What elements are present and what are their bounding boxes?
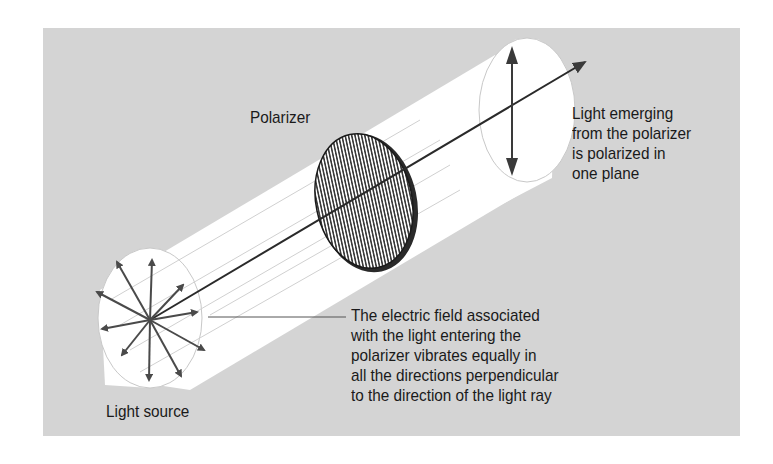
emerging-line-3: is polarized in (572, 144, 666, 164)
polarizer-label: Polarizer (250, 108, 310, 128)
emerging-line-2: from the polarizer (572, 124, 691, 144)
electric-field-line-4: all the directions perpendicular (351, 366, 559, 386)
electric-field-line-2: with the light entering the (351, 326, 521, 346)
electric-field-line-1: The electric field associated (351, 306, 540, 326)
electric-field-line-3: polarizer vibrates equally in (351, 346, 536, 366)
light-source-label: Light source (106, 402, 189, 422)
emerging-line-4: one plane (572, 164, 639, 184)
emerging-line-1: Light emerging (572, 104, 673, 124)
electric-field-line-5: to the direction of the light ray (351, 386, 552, 406)
